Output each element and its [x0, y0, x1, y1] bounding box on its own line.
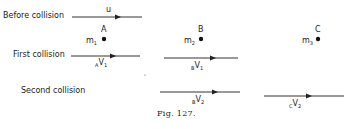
mass-label-m1: m1	[86, 36, 97, 46]
mass-subscript: 3	[310, 40, 313, 46]
row-label-second: Second collision	[21, 86, 85, 95]
velocity-subscript: 1	[104, 62, 107, 68]
velocity-subscript: 2	[201, 99, 204, 105]
arrow-b-v1	[164, 56, 238, 61]
velocity-label-a-v1: AV1	[95, 58, 107, 68]
figure-caption: Fig. 127.	[157, 109, 196, 118]
body-letter-b: B	[198, 25, 204, 34]
arrow-c-v2	[264, 94, 344, 99]
mass-label-m3: m3	[302, 36, 313, 46]
mass-symbol: m	[302, 36, 310, 45]
dot-b	[199, 37, 203, 41]
arrow-b-v2	[160, 90, 240, 95]
velocity-u-label: u	[106, 5, 111, 14]
row-label-before: Before collision	[3, 11, 64, 20]
arrow-u	[72, 15, 142, 20]
mass-label-m2: m2	[184, 36, 195, 46]
velocity-subscript: 2	[298, 103, 301, 109]
stray-dot	[144, 74, 145, 75]
dot-a	[102, 37, 106, 41]
velocity-label-b-v1: BV1	[191, 61, 203, 71]
dot-c	[316, 37, 320, 41]
mass-subscript: 2	[192, 40, 195, 46]
velocity-label-b-v2: BV2	[192, 95, 204, 105]
body-letter-a: A	[101, 25, 106, 34]
body-letter-c: C	[315, 25, 321, 34]
velocity-subscript: 1	[200, 65, 203, 71]
mass-subscript: 1	[94, 40, 97, 46]
mass-symbol: m	[184, 36, 192, 45]
velocity-label-c-v2: CV2	[289, 99, 301, 109]
row-label-first: First collision	[13, 50, 65, 59]
mass-symbol: m	[86, 36, 94, 45]
